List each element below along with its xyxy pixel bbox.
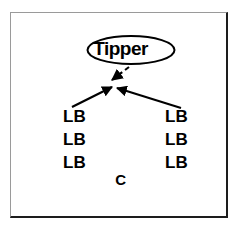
right-lb-item-3: LB (165, 154, 188, 171)
right-lb-item-2: LB (165, 131, 188, 148)
diagram-canvas (0, 0, 241, 232)
solid-edge-from-right-group (117, 88, 181, 108)
right-lb-item-1: LB (165, 108, 188, 125)
figure-root: Tipper LB LB LB LB LB LB C (0, 0, 241, 232)
bottom-c-label: C (0, 172, 241, 187)
dashed-edge-from-tipper (112, 67, 129, 80)
left-lb-item-3: LB (63, 154, 86, 171)
tipper-label: Tipper (0, 39, 241, 58)
left-lb-item-1: LB (63, 108, 86, 125)
solid-edge-from-left-group (72, 87, 112, 107)
left-lb-item-2: LB (63, 131, 86, 148)
